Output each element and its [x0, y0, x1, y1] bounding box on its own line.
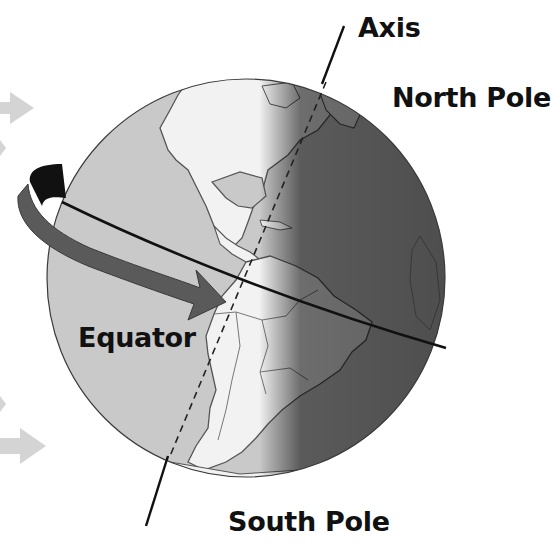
night-shade — [40, 70, 460, 490]
sun-arrow-3-icon — [0, 396, 6, 412]
axis-line-top — [322, 26, 344, 84]
equator-label: Equator — [78, 322, 196, 353]
axis-line-bottom — [146, 456, 168, 526]
sun-arrow-2-icon — [0, 140, 6, 156]
south-pole-label: South Pole — [228, 506, 390, 537]
sun-arrow-1-icon — [0, 92, 34, 124]
sun-arrow-4-icon — [0, 428, 46, 464]
north-pole-label: North Pole — [392, 82, 551, 113]
sunlight-arrows — [0, 92, 46, 464]
globe — [40, 66, 460, 490]
axis-label: Axis — [358, 12, 420, 43]
